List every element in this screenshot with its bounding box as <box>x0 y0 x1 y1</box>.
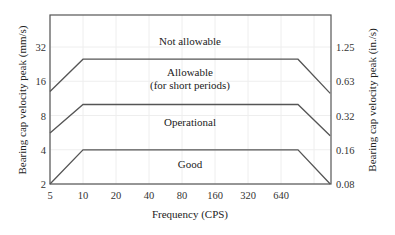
y-tick-label-right: 0.08 <box>336 179 354 190</box>
zone-label: Good <box>178 158 203 170</box>
y-tick-label-left: 8 <box>41 111 46 122</box>
y-tick-label-right: 0.63 <box>336 76 354 87</box>
vibration-severity-chart: 510204080160320640 2481632 0.080.160.320… <box>0 0 395 235</box>
zone-sublabel: (for short periods) <box>150 79 230 92</box>
zone-label: Allowable <box>167 66 213 78</box>
y-tick-label-right: 0.32 <box>336 111 354 122</box>
y-tick-label-right: 0.16 <box>336 145 354 156</box>
x-tick-label: 20 <box>111 190 122 201</box>
x-tick-label: 320 <box>240 190 256 201</box>
zone-label: Not allowable <box>159 35 221 47</box>
y-tick-label-left: 16 <box>36 76 47 87</box>
y-axis-title-right: Bearing cap velocity peak (in./s) <box>366 28 379 172</box>
y-tick-label-left: 2 <box>41 179 46 190</box>
zone-label: Operational <box>164 116 216 128</box>
x-tick-label: 40 <box>144 190 155 201</box>
y-tick-label-left: 4 <box>41 145 47 156</box>
y-axis-ticks-right: 0.080.160.320.631.25 <box>336 42 354 190</box>
x-tick-label: 80 <box>177 190 188 201</box>
y-axis-ticks-left: 2481632 <box>36 42 47 190</box>
x-tick-label: 640 <box>273 190 289 201</box>
x-tick-label: 10 <box>78 190 89 201</box>
x-tick-label: 160 <box>207 190 223 201</box>
y-tick-label-left: 32 <box>36 42 47 53</box>
y-axis-title-left: Bearing cap velocity peak (mm/s) <box>16 25 29 174</box>
y-tick-label-right: 1.25 <box>336 42 354 53</box>
x-axis-title: Frequency (CPS) <box>152 208 228 221</box>
x-axis-ticks: 510204080160320640 <box>47 190 289 201</box>
x-tick-label: 5 <box>47 190 52 201</box>
